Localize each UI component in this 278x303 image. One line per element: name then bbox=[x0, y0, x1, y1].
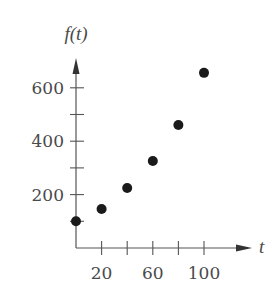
data-point bbox=[97, 204, 107, 214]
y-axis-title: f(t) bbox=[64, 23, 87, 45]
x-tick-label: 20 bbox=[91, 263, 113, 283]
axes bbox=[73, 58, 253, 252]
ticks bbox=[70, 88, 204, 255]
y-tick-label: 400 bbox=[32, 131, 64, 151]
x-axis-title: t bbox=[259, 236, 265, 257]
data-point bbox=[148, 156, 158, 166]
tick-labels: 2060100200400600 bbox=[32, 78, 221, 283]
x-tick-label: 100 bbox=[188, 263, 220, 283]
y-tick-label: 200 bbox=[32, 185, 64, 205]
x-axis-arrow-icon bbox=[236, 245, 252, 252]
data-points bbox=[71, 68, 209, 226]
scatter-chart: 2060100200400600 f(t) t bbox=[0, 0, 278, 303]
y-tick-label: 600 bbox=[32, 78, 64, 98]
data-point bbox=[199, 68, 209, 78]
data-point bbox=[71, 216, 81, 226]
y-axis-arrow-icon bbox=[73, 58, 80, 74]
x-tick-label: 60 bbox=[142, 263, 164, 283]
data-point bbox=[122, 183, 132, 193]
data-point bbox=[173, 120, 183, 130]
